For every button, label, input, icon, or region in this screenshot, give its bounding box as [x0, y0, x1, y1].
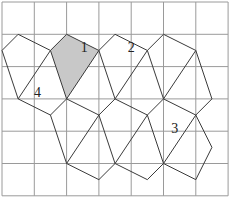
tiling-edges — [2, 34, 212, 179]
tiling-edge — [164, 115, 196, 163]
tiling-edge — [164, 164, 196, 180]
tiling-edge — [99, 99, 115, 115]
tiling-edge — [67, 115, 99, 163]
tiling-edge — [147, 34, 163, 50]
tiling-diagram: 1234 — [0, 0, 229, 207]
tiling-edge — [196, 50, 212, 98]
tiling-edge — [147, 50, 163, 98]
region-label-1: 1 — [81, 40, 88, 55]
tiling-edge — [50, 99, 66, 115]
tiling-edge — [99, 164, 115, 180]
tiling-edge — [164, 34, 196, 50]
tiling-edge — [196, 99, 212, 115]
tiling-edge — [2, 50, 18, 98]
region-label-2: 2 — [128, 40, 135, 55]
tiling-edge — [164, 50, 196, 98]
region-label-4: 4 — [34, 85, 41, 100]
tiling-edge — [99, 115, 115, 163]
tiling-edge — [67, 99, 99, 115]
tiling-edge — [164, 99, 196, 115]
tiling-edge — [50, 115, 66, 163]
tiling-edge — [147, 115, 163, 163]
tiling-edge — [99, 50, 115, 98]
tiling-edge — [147, 99, 163, 115]
tiling-edge — [147, 164, 163, 180]
diagram-canvas: 1234 — [0, 0, 229, 207]
tiling-edge — [2, 34, 18, 50]
region-label-3: 3 — [171, 121, 178, 136]
tiling-edge — [67, 164, 99, 180]
tiling-edge — [99, 34, 115, 50]
